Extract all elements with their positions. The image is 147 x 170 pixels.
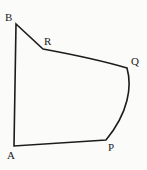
- vertex-label-a: A: [7, 150, 15, 161]
- vertex-label-p: P: [108, 142, 114, 153]
- vertex-label-r: R: [44, 36, 51, 47]
- vertex-label-q: Q: [131, 56, 139, 67]
- polygon-outline-path: [14, 24, 129, 146]
- geometry-figure-canvas: B R Q P A: [0, 0, 147, 170]
- figure-svg: [0, 0, 147, 170]
- vertex-label-b: B: [5, 12, 12, 23]
